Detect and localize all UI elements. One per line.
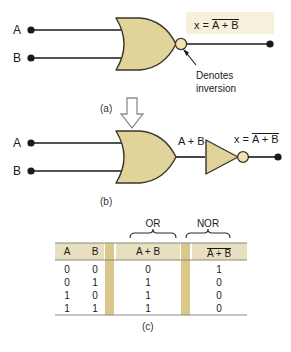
brace-nor: [186, 229, 230, 238]
panel-a-expr-lead: x =: [194, 19, 209, 31]
terminal-a-input-a: [27, 26, 34, 33]
panel-b-output-expression: x = A + B: [234, 133, 279, 146]
nor-gate-body: [116, 18, 176, 70]
table-row: 0: [57, 278, 77, 288]
table-row: 1: [85, 304, 105, 314]
table-separator-1: [105, 243, 114, 315]
panel-a-input-label-a: A: [13, 24, 21, 36]
panel-b-input-label-a: A: [13, 137, 21, 149]
table-row: 0: [194, 278, 244, 288]
table-row: 0: [57, 265, 77, 275]
terminal-a-output: [266, 40, 273, 47]
table-row: 0: [85, 291, 105, 301]
panel-a-output-expression: x = A + B: [194, 19, 239, 32]
truth-table-header-or: A + B: [118, 247, 178, 257]
truth-table-group-label-or: OR: [134, 219, 172, 229]
panel-b-input-label-b: B: [13, 165, 21, 177]
panel-a-input-label-b: B: [13, 52, 21, 64]
truth-table-header-nor-text: A + B: [207, 248, 231, 260]
panel-c-label: (c): [142, 322, 154, 332]
table-row: 0: [194, 304, 244, 314]
brace-or: [130, 229, 176, 238]
table-row: 1: [194, 265, 244, 275]
inversion-annotation-line-2: inversion: [196, 83, 236, 95]
panel-a-label: (a): [100, 104, 112, 114]
panel-b-intermediate-expression: A + B: [178, 136, 205, 147]
truth-table-header-nor: A + B: [194, 248, 244, 260]
table-row: 1: [57, 304, 77, 314]
terminal-b-output: [274, 153, 281, 160]
table-row: 1: [57, 291, 77, 301]
or-gate-body: [116, 131, 176, 183]
terminal-b-input-a: [27, 139, 34, 146]
truth-table-group-label-nor: NOR: [188, 219, 228, 229]
panel-b-expr-operand: A + B: [252, 133, 279, 146]
table-row: 1: [118, 304, 178, 314]
table-row: 0: [85, 265, 105, 275]
inversion-annotation-line-1: Denotes: [196, 70, 233, 82]
terminal-a-input-b: [27, 54, 34, 61]
table-separator-2: [181, 243, 190, 315]
truth-table-header-b: B: [85, 247, 105, 257]
panel-b-label: (b): [100, 197, 112, 207]
truth-table-header-a: A: [57, 247, 77, 257]
table-row: 0: [194, 291, 244, 301]
panel-b-expr-lead: x =: [234, 133, 249, 145]
transition-down-arrow-icon: [121, 98, 143, 128]
terminal-b-input-b: [27, 167, 34, 174]
inverter-bubble-icon: [238, 152, 249, 163]
table-row: 1: [118, 291, 178, 301]
table-row: 0: [118, 265, 178, 275]
table-row: 1: [118, 278, 178, 288]
inversion-bubble-icon: [175, 38, 186, 49]
panel-a-expr-operand: A + B: [212, 19, 239, 32]
table-row: 1: [85, 278, 105, 288]
figure-root: A B x = A + B Denotes inversion (a) A B …: [0, 0, 291, 352]
